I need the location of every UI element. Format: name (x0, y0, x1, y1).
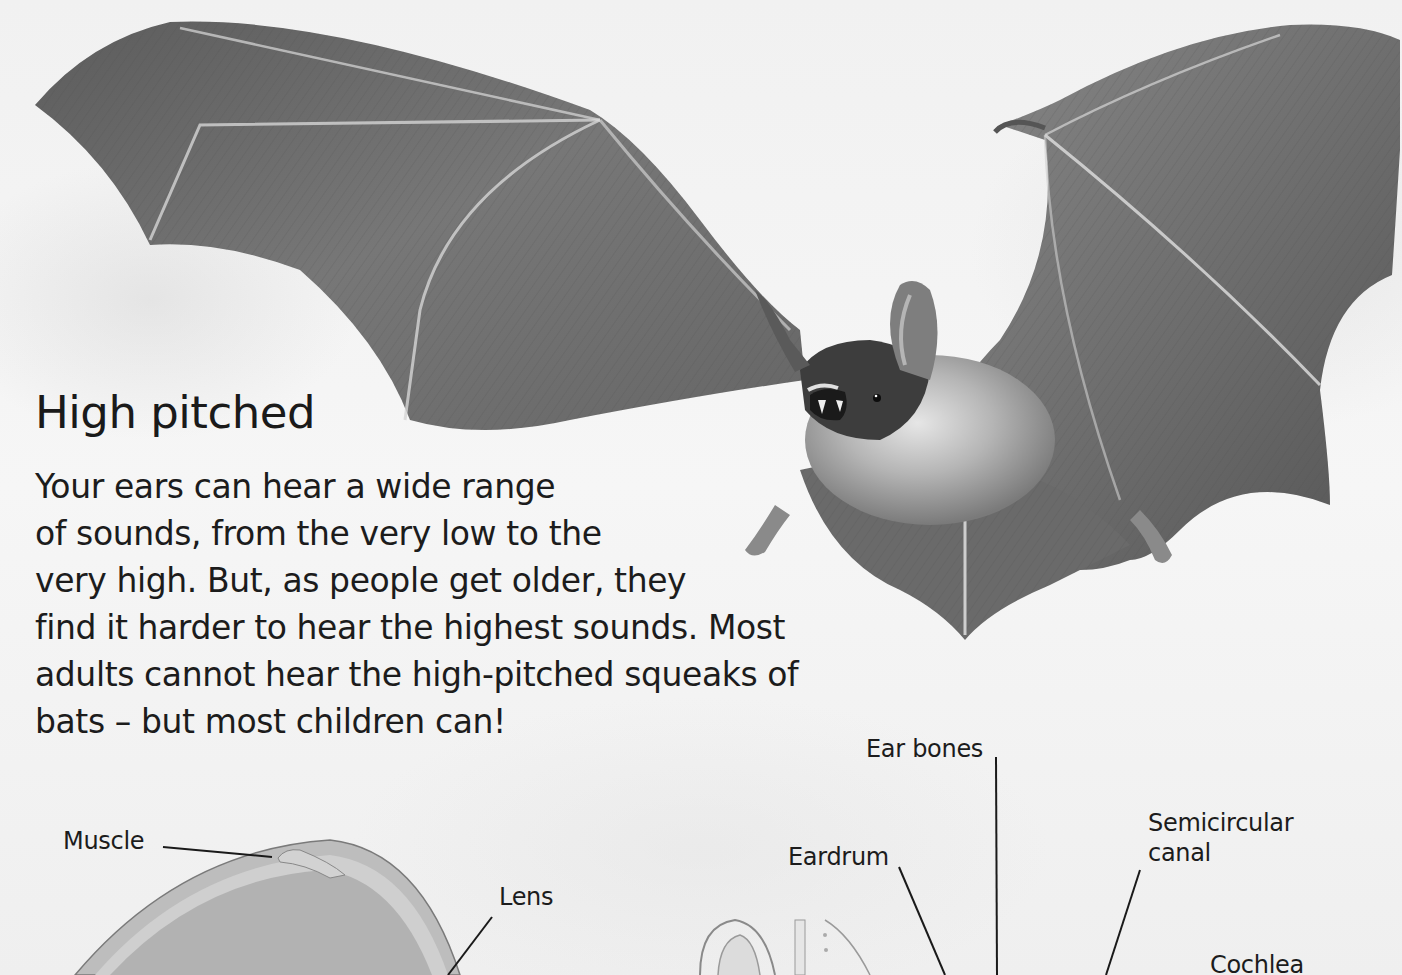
paragraph-line: Your ears can hear a wide range (35, 463, 855, 510)
section-heading: High pitched (35, 390, 315, 435)
paragraph-line: very high. But, as people get older, the… (35, 557, 855, 604)
label-lens: Lens (499, 882, 553, 912)
paragraph-line: bats – but most children can! (35, 698, 855, 745)
label-muscle: Muscle (63, 826, 144, 856)
label-semicircular-line1: Semicircular (1148, 808, 1293, 838)
label-ear-bones: Ear bones (866, 734, 983, 764)
paragraph-line: find it harder to hear the highest sound… (35, 604, 855, 651)
label-eardrum: Eardrum (788, 842, 889, 872)
semicircular-canal-callout-line (1106, 870, 1140, 975)
ear-illustration (700, 920, 870, 975)
paragraph-line: of sounds, from the very low to the (35, 510, 855, 557)
label-cochlea: Cochlea (1210, 950, 1304, 975)
ear-bones-callout-line (996, 757, 997, 975)
label-semicircular-canal: Semicircular canal (1148, 808, 1293, 868)
eardrum-callout-line (899, 867, 945, 975)
section-paragraph: Your ears can hear a wide range of sound… (35, 463, 855, 745)
paragraph-line: adults cannot hear the high-pitched sque… (35, 651, 855, 698)
label-semicircular-line2: canal (1148, 838, 1293, 868)
